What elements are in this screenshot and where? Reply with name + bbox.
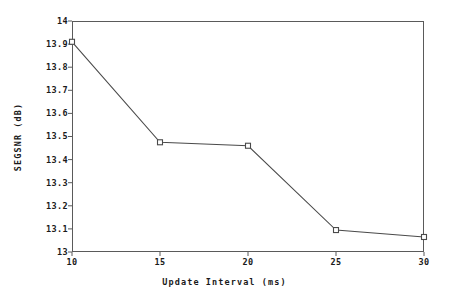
x-tick-marks (72, 252, 424, 256)
x-tick-label: 25 (330, 257, 341, 267)
chart-figure: 14 13.9 13.8 13.7 13.6 13.5 13.4 13.3 13… (0, 0, 449, 300)
x-tick-label: 20 (242, 257, 253, 267)
x-tick-label: 10 (66, 257, 77, 267)
x-tick-label: 30 (418, 257, 429, 267)
y-axis-title-holder: SEGSNR (dB) (8, 0, 28, 273)
x-tick-label: 15 (154, 257, 165, 267)
y-axis-title: SEGSNR (dB) (13, 102, 23, 170)
plot-area (72, 21, 424, 252)
x-axis-title: Update Interval (ms) (0, 277, 449, 287)
